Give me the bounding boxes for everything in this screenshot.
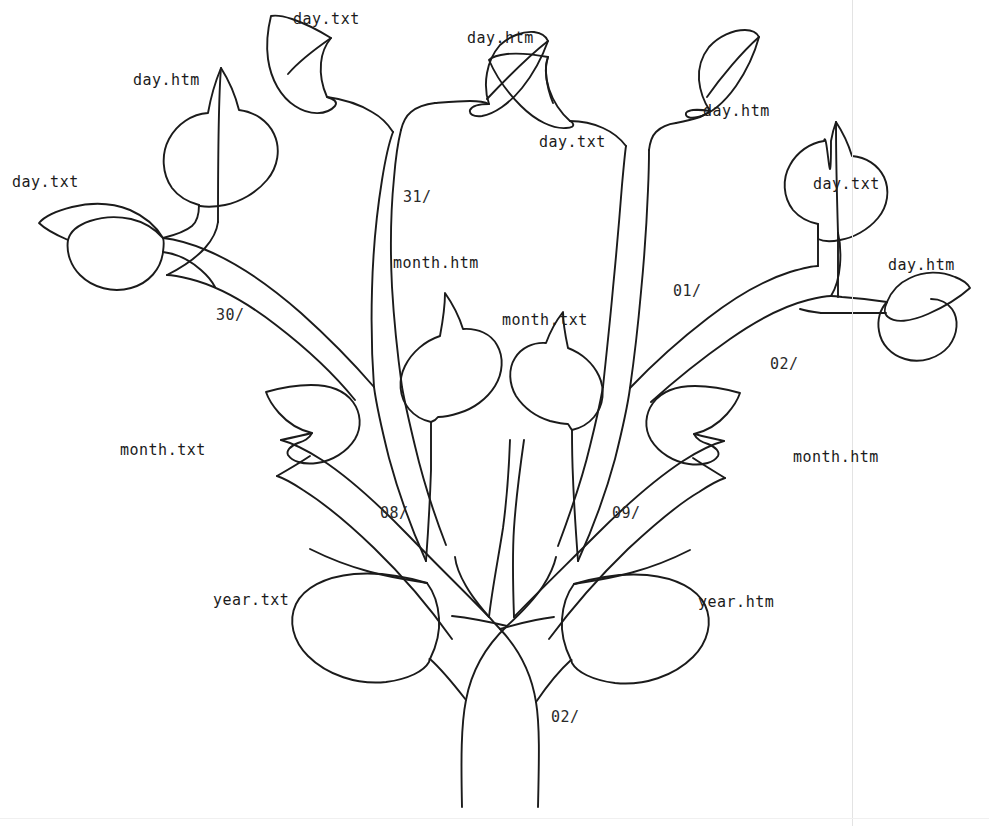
stem-day-txt-top-left-b xyxy=(401,103,435,130)
branch-label-30: 30/ xyxy=(216,308,245,323)
tree-drawing xyxy=(0,0,989,826)
stem-day-htm-upper-left-a xyxy=(163,205,199,238)
riser-01-right xyxy=(630,150,649,388)
leaf-midrib-day-htm-upper-left xyxy=(218,68,221,222)
stem-day-txt-mid-right-b xyxy=(649,123,676,150)
branch-30-outer xyxy=(163,238,374,387)
central-spire-left xyxy=(489,440,510,617)
leaf-label-year-txt-left: year.txt xyxy=(213,593,289,608)
leaf-label-day-txt-right: day.txt xyxy=(813,177,880,192)
stem-day-htm-upper-left-b xyxy=(167,222,218,275)
leaf-label-day-htm-upper-left: day.htm xyxy=(133,73,200,88)
diagram-canvas: day.txt day.htm day.txt day.htm day.txt … xyxy=(0,0,989,826)
leaf-label-day-htm-upper-right: day.htm xyxy=(703,104,770,119)
leaf-body-day-htm-far-right xyxy=(878,299,956,361)
leaf-shape-day-htm-far-right xyxy=(885,273,970,321)
leaf-label-month-txt-center: month.txt xyxy=(502,313,588,328)
branch-09-riser-left xyxy=(558,387,603,546)
leaf-vein-day-txt-top-left xyxy=(288,38,331,74)
trunk-left-wall xyxy=(461,557,556,807)
branch-label-09: 09/ xyxy=(612,506,641,521)
branch-label-02-right: 02/ xyxy=(770,357,799,372)
leaf-label-month-txt-left: month.txt xyxy=(120,443,206,458)
branch-09-inner xyxy=(549,478,725,639)
leaf-stem-day-txt-far-left xyxy=(163,252,215,287)
leaf-shape-month-txt-center xyxy=(510,312,602,430)
leaf-label-day-txt-far-left: day.txt xyxy=(12,175,79,190)
leaf-label-day-htm-top-mid: day.htm xyxy=(467,31,534,46)
leaf-shape-year-txt xyxy=(292,573,439,682)
leaf-body-day-txt-far-left xyxy=(68,238,164,290)
leaf-vein-day-htm-upper-right xyxy=(707,37,759,97)
leaf-stem-year-htm-b xyxy=(536,660,571,702)
riser-01-left xyxy=(603,146,626,387)
leaf-shape-month-htm-right xyxy=(646,386,740,465)
branch-08-riser-left xyxy=(374,387,426,561)
bottom-ghost-text xyxy=(0,816,989,826)
leaf-label-year-htm-right: year.htm xyxy=(698,595,774,610)
leaf-shape-month-htm-center xyxy=(400,293,501,422)
scan-seam-line xyxy=(852,0,853,826)
branch-label-02-trunk: 02/ xyxy=(551,710,580,725)
leaf-shape-month-txt-left xyxy=(266,385,360,464)
branch-label-08: 08/ xyxy=(380,506,409,521)
branch-08-outer xyxy=(281,440,489,617)
leaf-shape-day-txt-far-left xyxy=(39,204,163,240)
central-spire-right xyxy=(513,440,524,617)
leaf-shape-day-txt-mid-right xyxy=(489,54,573,128)
stem-day-txt-top-left-a xyxy=(327,97,393,132)
leaf-shape-year-htm xyxy=(562,574,709,683)
leaf-label-month-htm-center: month.htm xyxy=(393,256,479,271)
leaf-stem-year-htm-a xyxy=(500,617,554,629)
leaf-stem-day-htm-far-right-a xyxy=(831,296,887,302)
branch-label-31: 31/ xyxy=(403,190,432,205)
leaf-stem-month-htm-right-b xyxy=(693,458,725,478)
branch-label-01: 01/ xyxy=(673,284,702,299)
leaf-stem-year-txt-a xyxy=(452,616,507,626)
leaf-label-day-txt-mid-right: day.txt xyxy=(539,135,606,150)
leaf-label-day-htm-far-right: day.htm xyxy=(888,258,955,273)
leaf-label-day-txt-top-left: day.txt xyxy=(293,12,360,27)
riser-31-left xyxy=(372,132,393,387)
branch-02-inner xyxy=(651,296,831,402)
leaf-shape-day-txt-top-left xyxy=(267,16,336,114)
branch-09-riser-right xyxy=(578,388,630,561)
stem-day-txt-right-b xyxy=(831,233,840,296)
leaf-connector-day-txt-right-2 xyxy=(800,309,821,313)
leaf-stem-year-txt-b xyxy=(430,659,466,700)
leaf-label-month-htm-right: month.htm xyxy=(793,450,879,465)
